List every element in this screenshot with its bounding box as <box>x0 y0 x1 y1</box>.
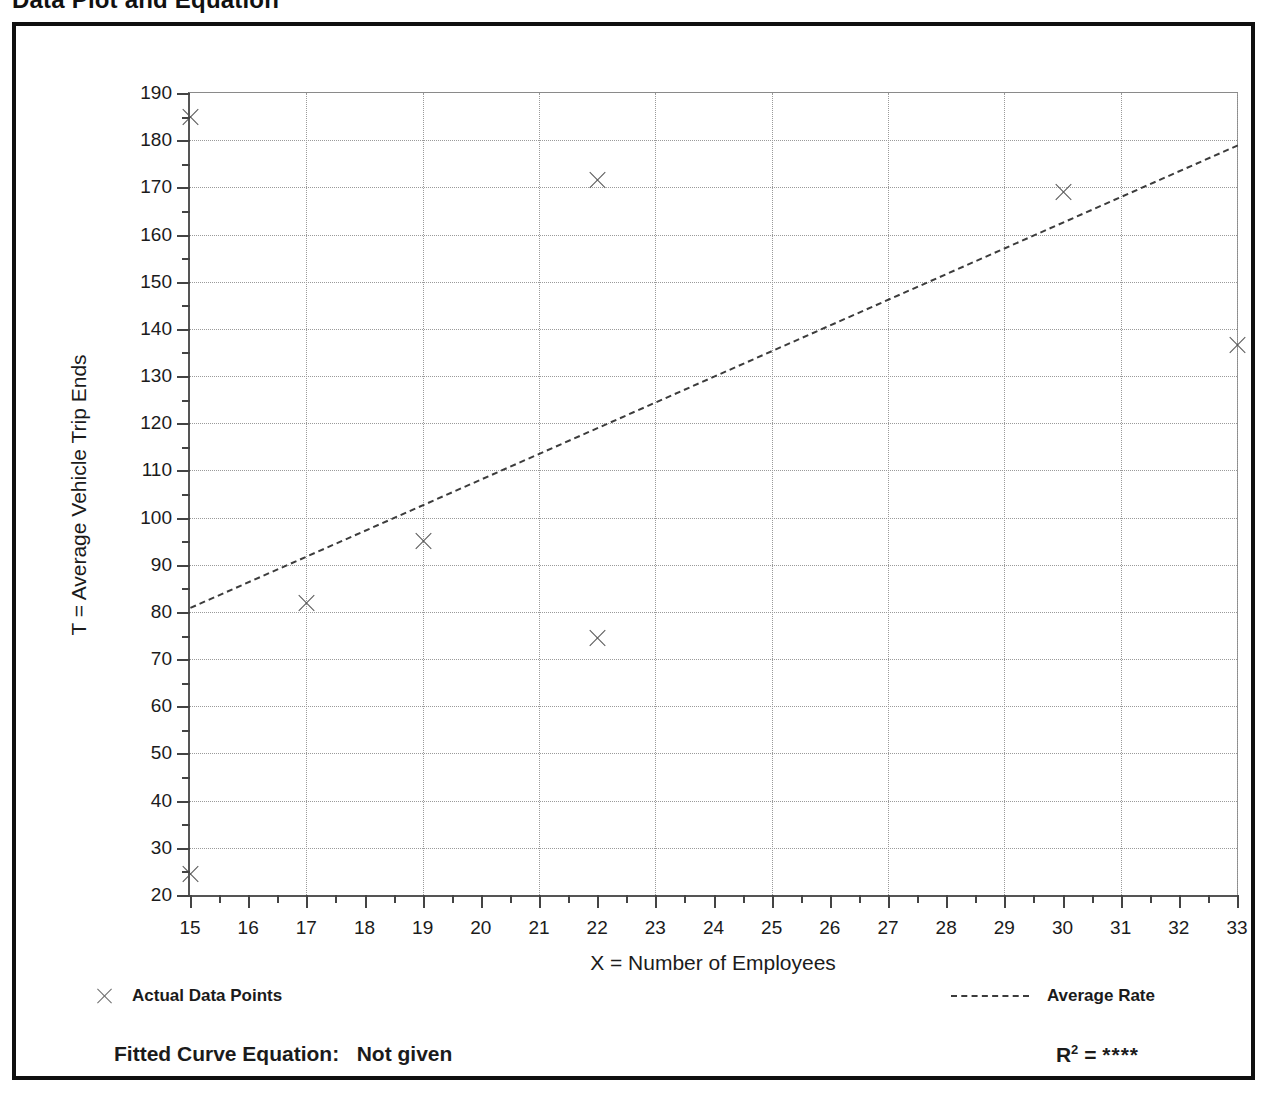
x-axis-minor-tick <box>684 895 686 903</box>
y-axis-tick <box>177 895 190 897</box>
grid-layer <box>190 93 1237 895</box>
x-marker-icon <box>94 986 114 1006</box>
y-axis-minor-tick <box>182 541 190 543</box>
data-points-layer <box>190 93 1237 895</box>
y-axis-minor-tick <box>182 305 190 307</box>
x-axis-tick <box>946 895 948 908</box>
r-squared-equals: = <box>1084 1043 1096 1066</box>
y-axis-minor-tick <box>182 730 190 732</box>
x-axis-tick-label: 30 <box>1052 917 1073 939</box>
x-axis-tick-label: 17 <box>296 917 317 939</box>
trend-line-layer <box>190 93 1237 895</box>
y-axis-tick <box>177 612 190 614</box>
y-axis-tick <box>177 423 190 425</box>
x-axis-tick <box>306 895 308 908</box>
x-axis-tick-label: 26 <box>819 917 840 939</box>
page-title: Data Plot and Equation <box>12 0 279 14</box>
x-axis-tick <box>365 895 367 908</box>
y-axis-tick-label: 90 <box>112 554 172 576</box>
x-axis-tick-label: 21 <box>528 917 549 939</box>
y-axis-minor-tick <box>182 636 190 638</box>
gridline-horizontal <box>190 801 1237 802</box>
y-axis-tick-label: 170 <box>112 176 172 198</box>
fitted-curve-equation: Fitted Curve Equation: Not given <box>114 1042 452 1066</box>
x-axis-tick-label: 15 <box>179 917 200 939</box>
gridline-vertical <box>772 93 773 895</box>
gridline-vertical <box>1237 93 1238 895</box>
gridline-vertical <box>306 93 307 895</box>
y-axis-minor-tick <box>182 871 190 873</box>
chart-footer: Fitted Curve Equation: Not given R2 = **… <box>16 1038 1251 1082</box>
y-axis-tick-label: 40 <box>112 790 172 812</box>
data-point-marker <box>295 592 317 614</box>
x-axis-tick <box>714 895 716 908</box>
y-axis-tick-label: 60 <box>112 695 172 717</box>
y-axis-tick <box>177 848 190 850</box>
gridline-vertical <box>655 93 656 895</box>
x-axis-tick-label: 33 <box>1226 917 1247 939</box>
gridline-horizontal <box>190 753 1237 754</box>
y-axis-tick <box>177 329 190 331</box>
x-axis-tick-label: 32 <box>1168 917 1189 939</box>
data-point-marker <box>1226 334 1248 356</box>
x-axis-tick <box>772 895 774 908</box>
legend-label-actual-data-points: Actual Data Points <box>132 986 282 1006</box>
y-axis-tick-label: 110 <box>112 459 172 481</box>
x-axis-minor-tick <box>568 895 570 903</box>
x-axis-minor-tick <box>1208 895 1210 903</box>
y-axis-tick <box>177 140 190 142</box>
x-axis-tick-label: 22 <box>587 917 608 939</box>
legend-entry-actual-data-points: Actual Data Points <box>94 986 282 1006</box>
gridline-vertical <box>1121 93 1122 895</box>
gridline-horizontal <box>190 376 1237 377</box>
x-axis-minor-tick <box>859 895 861 903</box>
x-axis-tick <box>1237 895 1239 908</box>
plot-area: 2030405060708090100110120130140150160170… <box>188 92 1238 897</box>
y-axis-tick-label: 100 <box>112 507 172 529</box>
x-axis-tick <box>423 895 425 908</box>
y-axis-tick <box>177 565 190 567</box>
data-point-marker <box>586 169 608 191</box>
x-axis-minor-tick <box>1033 895 1035 903</box>
x-axis-tick <box>190 895 192 908</box>
x-axis-tick <box>539 895 541 908</box>
fitted-curve-equation-label: Fitted Curve Equation: <box>114 1042 339 1065</box>
y-axis-tick-label: 130 <box>112 365 172 387</box>
data-point-marker <box>179 863 201 885</box>
gridline-horizontal <box>190 518 1237 519</box>
data-point-marker <box>586 627 608 649</box>
gridline-horizontal <box>190 848 1237 849</box>
average-rate-trend-line <box>190 145 1238 609</box>
gridline-horizontal <box>190 140 1237 141</box>
x-axis-tick-label: 27 <box>877 917 898 939</box>
r-squared-exponent: 2 <box>1071 1042 1078 1057</box>
y-axis-minor-tick <box>182 824 190 826</box>
x-axis-minor-tick <box>452 895 454 903</box>
y-axis-title: T = Average Vehicle Trip Ends <box>64 92 94 897</box>
x-axis-tick-label: 24 <box>703 917 724 939</box>
x-axis-tick <box>1004 895 1006 908</box>
x-axis-tick-label: 20 <box>470 917 491 939</box>
legend-entry-average-rate: Average Rate <box>951 986 1155 1006</box>
chart-figure-frame: T = Average Vehicle Trip Ends 2030405060… <box>12 22 1255 1080</box>
x-axis-tick-label: 25 <box>761 917 782 939</box>
y-axis-tick <box>177 235 190 237</box>
x-axis-tick <box>481 895 483 908</box>
x-axis-tick <box>597 895 599 908</box>
y-axis-tick <box>177 470 190 472</box>
gridline-horizontal <box>190 187 1237 188</box>
x-axis-tick <box>655 895 657 908</box>
x-axis-tick <box>1179 895 1181 908</box>
x-axis-minor-tick <box>801 895 803 903</box>
y-axis-minor-tick <box>182 211 190 213</box>
y-axis-tick-label: 180 <box>112 129 172 151</box>
x-axis-tick <box>1063 895 1065 908</box>
y-axis-minor-tick <box>182 447 190 449</box>
y-axis-tick <box>177 282 190 284</box>
y-axis-minor-tick <box>182 588 190 590</box>
y-axis-tick <box>177 801 190 803</box>
y-axis-minor-tick <box>182 164 190 166</box>
y-axis-tick-label: 30 <box>112 837 172 859</box>
x-axis-tick <box>248 895 250 908</box>
x-axis-minor-tick <box>510 895 512 903</box>
